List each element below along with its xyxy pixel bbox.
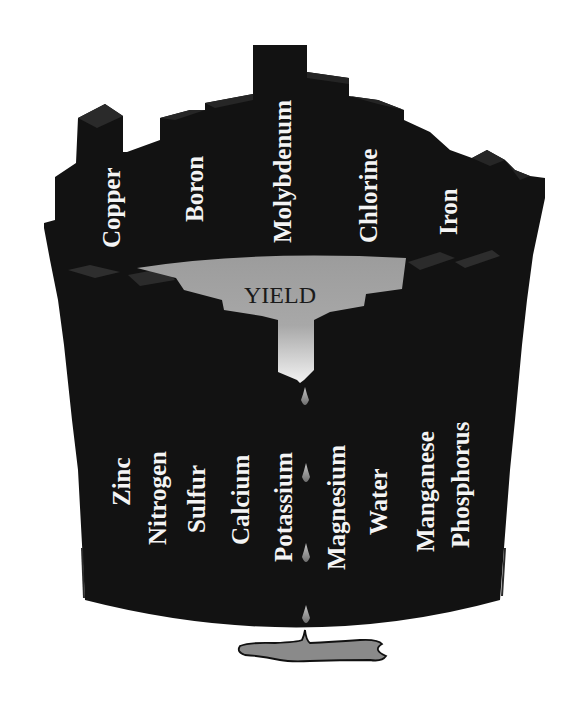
- stave-label-calcium: Calcium: [227, 455, 254, 545]
- stave-label-copper: Copper: [98, 167, 125, 248]
- puddle: [239, 630, 386, 661]
- stave-label-phosphorus: Phosphorus: [447, 421, 474, 548]
- stave-label-chlorine: Chlorine: [355, 149, 382, 243]
- limiting-factor-barrel-diagram: YIELD Copper Boron Molybdenum Chlorine I…: [0, 0, 579, 708]
- stave-label-manganese: Manganese: [412, 431, 439, 552]
- stave-label-water: Water: [365, 468, 392, 535]
- stave-label-potassium: Potassium: [270, 452, 297, 562]
- yield-label: YIELD: [244, 282, 316, 308]
- stave-label-zinc: Zinc: [108, 457, 135, 506]
- stave-label-molybdenum: Molybdenum: [269, 100, 296, 243]
- stave-label-nitrogen: Nitrogen: [144, 451, 171, 545]
- stave-label-sulfur: Sulfur: [183, 465, 210, 533]
- stave-label-iron: Iron: [435, 188, 462, 235]
- stave-label-magnesium: Magnesium: [323, 445, 350, 570]
- stave-label-boron: Boron: [181, 156, 208, 222]
